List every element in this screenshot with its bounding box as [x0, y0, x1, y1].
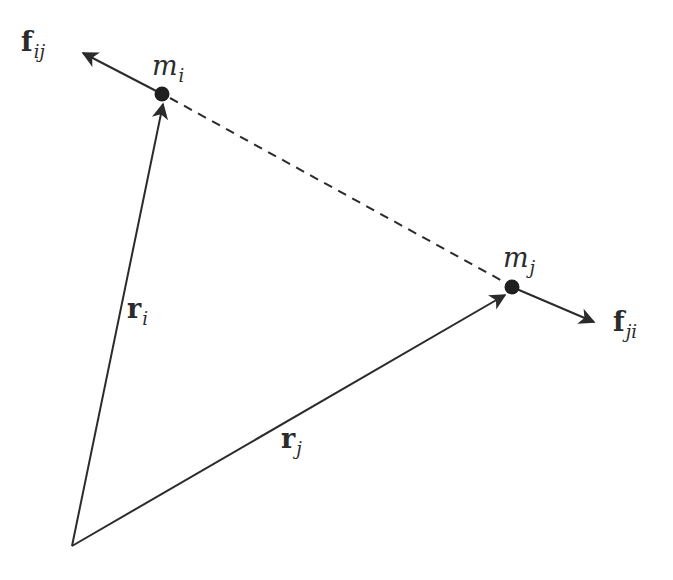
label-position-j: rj	[281, 425, 301, 452]
label-position-j-base: r	[281, 423, 295, 454]
label-force-ji: fji	[613, 308, 636, 335]
vector-r-j	[72, 295, 505, 546]
vector-f-ij	[83, 53, 162, 94]
vector-r-i	[72, 104, 163, 546]
label-force-ij-subscript: ij	[34, 41, 45, 62]
label-mass-j-base: m	[503, 242, 529, 273]
mass-point-j	[505, 280, 520, 295]
vector-f-ji	[512, 287, 594, 322]
force-diagram-canvas: fij fji mi mj ri rj	[0, 0, 673, 580]
label-mass-j-subscript: j	[530, 257, 536, 278]
label-mass-i-subscript: i	[179, 65, 185, 86]
label-mass-i-base: m	[152, 50, 178, 81]
label-position-i-subscript: i	[142, 308, 148, 329]
label-position-i: ri	[127, 295, 147, 322]
label-force-ij-base: f	[21, 26, 33, 57]
label-force-ji-base: f	[613, 306, 625, 337]
label-force-ji-subscript: ji	[626, 321, 637, 342]
label-position-i-base: r	[127, 293, 141, 324]
separation-dashed-line	[170, 98, 506, 283]
mass-point-i	[155, 87, 170, 102]
label-mass-j: mj	[503, 244, 534, 271]
label-position-j-subscript: j	[296, 438, 302, 459]
label-mass-i: mi	[152, 52, 183, 79]
force-diagram-svg	[0, 0, 673, 580]
label-force-ij: fij	[21, 28, 44, 55]
